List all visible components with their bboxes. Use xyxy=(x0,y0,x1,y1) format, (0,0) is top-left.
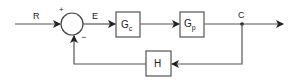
controller-subscript: c xyxy=(129,25,133,32)
error-label: E xyxy=(92,11,98,21)
input-label: R xyxy=(33,11,40,21)
plant-block: Gp xyxy=(180,12,204,37)
summing-junction xyxy=(61,13,83,35)
controller-block: Gc xyxy=(116,12,140,37)
output-label: C xyxy=(238,10,245,20)
plant-subscript: p xyxy=(192,24,196,32)
feedback-block: H xyxy=(146,51,171,76)
plus-sign: + xyxy=(59,5,64,14)
minus-sign: − xyxy=(81,32,86,42)
block-diagram: R + − E Gc Gp C H xyxy=(0,0,299,82)
feedback-label: H xyxy=(154,58,161,69)
